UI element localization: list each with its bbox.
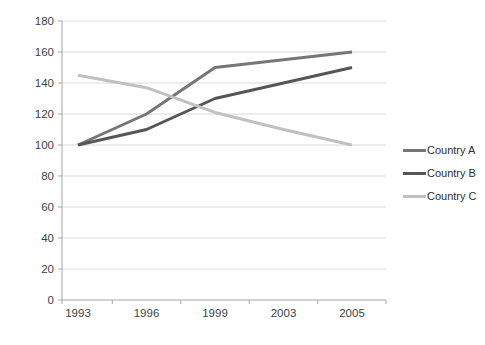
y-tick-label-140: 140: [35, 77, 54, 89]
y-tick-label-20: 20: [41, 263, 54, 275]
y-tick-label-80: 80: [41, 170, 54, 182]
legend-item-country-b: Country B: [403, 167, 477, 179]
x-tick-label-2003: 2003: [271, 307, 297, 319]
x-tick-label-2005: 2005: [339, 307, 365, 319]
legend-swatch-country-c: [403, 195, 426, 198]
legend-label-country-a: Country A: [427, 144, 475, 156]
y-tick-label-160: 160: [35, 46, 54, 58]
y-tick-label-40: 40: [41, 232, 54, 244]
legend-swatch-country-b: [403, 172, 426, 175]
x-tick-label-1993: 1993: [65, 307, 91, 319]
y-tick-label-60: 60: [41, 201, 54, 213]
legend-item-country-c: Country C: [403, 190, 477, 202]
legend-label-country-c: Country C: [427, 190, 477, 202]
y-tick-label-120: 120: [35, 108, 54, 120]
legend-label-country-b: Country B: [427, 167, 476, 179]
y-tick-label-100: 100: [35, 139, 54, 151]
y-tick-label-180: 180: [35, 15, 54, 27]
legend: Country A Country B Country C: [403, 144, 477, 202]
y-tick-label-0: 0: [48, 294, 54, 306]
line-country-b: [78, 68, 352, 146]
legend-item-country-a: Country A: [403, 144, 477, 156]
line-chart: 0204060801001201401601801993199619992003…: [0, 0, 485, 345]
x-tick-label-1999: 1999: [202, 307, 228, 319]
x-tick-label-1996: 1996: [134, 307, 160, 319]
legend-swatch-country-a: [403, 149, 426, 152]
